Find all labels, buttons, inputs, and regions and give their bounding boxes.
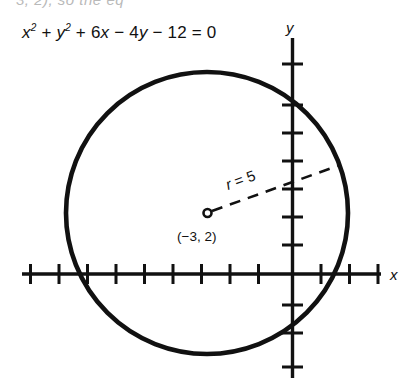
coordinate-plane-svg: r = 5 (−3, 2) x y (0, 0, 413, 386)
center-point-marker (204, 209, 212, 217)
center-coordinate-label: (−3, 2) (177, 229, 216, 244)
radius-label: r = 5 (223, 166, 257, 192)
x-axis-label: x (389, 266, 398, 283)
circle-figure: 3, 2), so the eq x2 + y2 + 6x − 4y − 12 … (0, 0, 413, 386)
y-axis-label: y (285, 19, 295, 36)
radius-label-value: = 5 (228, 166, 258, 191)
